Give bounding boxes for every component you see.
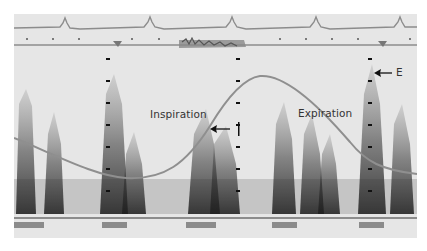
expiration-label: Expiration bbox=[298, 107, 352, 119]
doppler-graphics bbox=[14, 14, 417, 238]
respirometer-baseline bbox=[14, 38, 417, 48]
marker-triangle-icon bbox=[113, 41, 122, 47]
marker-i-bar bbox=[238, 122, 240, 136]
ecg-trace bbox=[14, 17, 417, 29]
doppler-display: Inspiration Expiration I E bbox=[14, 14, 417, 238]
spectral-signal bbox=[14, 64, 417, 214]
marker-triangle-icon bbox=[378, 41, 387, 47]
timing-dots bbox=[26, 38, 411, 40]
bottom-strip bbox=[14, 222, 384, 228]
arrow-e-icon bbox=[374, 69, 392, 77]
marker-e-label: E bbox=[396, 66, 403, 78]
inspiration-label: Inspiration bbox=[150, 108, 207, 120]
